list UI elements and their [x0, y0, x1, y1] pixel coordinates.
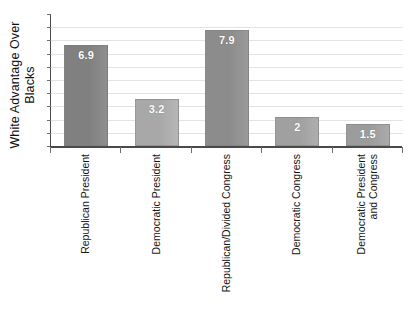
x-axis-tick: [191, 147, 192, 153]
x-axis-tick: [261, 147, 262, 153]
x-axis-ticks: [50, 147, 402, 153]
x-axis-tick: [332, 147, 333, 153]
bar-value-label: 2: [276, 121, 318, 133]
x-axis-tick: [402, 147, 403, 153]
x-axis-category-label: Democratic Congress: [261, 154, 331, 304]
bar-slot: 6.9: [64, 14, 108, 146]
bar[interactable]: 7.9: [205, 30, 249, 146]
bar-value-label: 7.9: [206, 34, 248, 46]
x-axis-category-label-line: Democratic Congress: [290, 154, 302, 255]
bar[interactable]: 6.9: [64, 45, 108, 146]
bar-value-label: 1.5: [347, 128, 389, 140]
x-axis-category-label-line: Democratic President: [355, 154, 367, 254]
bar-slot: 1.5: [346, 14, 390, 146]
bar-slot: 2: [275, 14, 319, 146]
bar[interactable]: 1.5: [346, 124, 390, 146]
x-axis-category-label-line: and Congress: [367, 154, 379, 254]
x-axis-tick: [50, 147, 51, 153]
bar-slot: 3.2: [135, 14, 179, 146]
y-axis-title-line-2: Blacks: [23, 21, 38, 148]
x-axis-category-label: Republican/Divided Congress: [191, 154, 261, 304]
bar-slot: 7.9: [205, 14, 249, 146]
x-axis-category-label: Democratic President: [120, 154, 190, 304]
x-axis-category-label: Democratic Presidentand Congress: [332, 154, 402, 304]
bar-series: 6.93.27.921.5: [51, 14, 403, 146]
bar-value-label: 6.9: [65, 49, 107, 61]
bar[interactable]: 3.2: [135, 99, 179, 146]
x-axis-category-label-line: Republican President: [79, 154, 91, 254]
x-axis-category-label: Republican President: [50, 154, 120, 304]
plot-area: 6.93.27.921.5: [50, 14, 403, 146]
y-axis-title-line-1: White Advantage Over: [8, 21, 23, 148]
y-axis-title: White Advantage Over Blacks: [0, 0, 46, 170]
x-axis-category-labels: Republican PresidentDemocratic President…: [50, 154, 402, 304]
bar[interactable]: 2: [275, 117, 319, 146]
bar-value-label: 3.2: [136, 103, 178, 115]
bar-chart: White Advantage Over Blacks 6.93.27.921.…: [0, 0, 418, 315]
x-axis-category-label-line: Democratic President: [150, 154, 162, 254]
x-axis-category-label-line: Republican/Divided Congress: [220, 154, 232, 292]
x-axis-tick: [120, 147, 121, 153]
